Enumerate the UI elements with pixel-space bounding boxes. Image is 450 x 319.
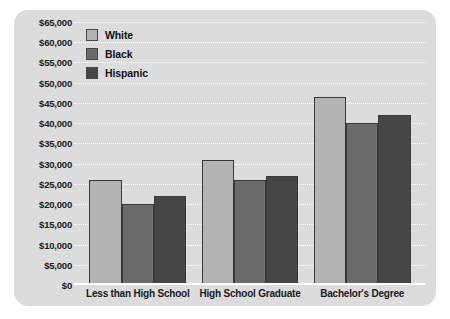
y-axis-tick-label: $15,000 bbox=[14, 219, 72, 230]
bar-group bbox=[314, 22, 411, 285]
bar-black bbox=[234, 180, 266, 285]
legend-swatch-icon bbox=[86, 29, 98, 41]
x-axis-label: High School Graduate bbox=[199, 288, 300, 299]
bar-hispanic bbox=[378, 115, 410, 285]
y-axis-tick-label: $50,000 bbox=[14, 77, 72, 88]
legend-label: Hispanic bbox=[105, 67, 148, 79]
bar-white bbox=[89, 180, 121, 285]
y-axis-tick-label: $20,000 bbox=[14, 199, 72, 210]
y-axis-tick-label: $60,000 bbox=[14, 37, 72, 48]
bar-hispanic bbox=[266, 176, 298, 285]
bar-hispanic bbox=[154, 196, 186, 285]
chart-card: $65,000$60,000$55,000$50,000$45,000$40,0… bbox=[14, 10, 436, 306]
chart-legend: WhiteBlackHispanic bbox=[86, 26, 148, 83]
legend-item-hispanic: Hispanic bbox=[86, 64, 148, 81]
legend-item-black: Black bbox=[86, 45, 148, 62]
axis-baseline bbox=[74, 283, 426, 285]
legend-swatch-icon bbox=[86, 48, 98, 60]
legend-label: White bbox=[105, 29, 133, 41]
bar-black bbox=[122, 204, 154, 285]
x-axis-category-labels: Less than High SchoolHigh School Graduat… bbox=[74, 288, 426, 304]
bar-group bbox=[202, 22, 299, 285]
x-axis-label: Less than High School bbox=[86, 288, 190, 299]
y-axis-tick-label: $40,000 bbox=[14, 118, 72, 129]
y-axis-tick-label: $55,000 bbox=[14, 57, 72, 68]
y-axis-tick-label: $35,000 bbox=[14, 138, 72, 149]
y-axis-tick-label: $25,000 bbox=[14, 178, 72, 189]
y-axis-tick-label: $5,000 bbox=[14, 259, 72, 270]
legend-item-white: White bbox=[86, 26, 148, 43]
x-axis-label: Bachelor's Degree bbox=[320, 288, 404, 299]
bar-white bbox=[314, 97, 346, 285]
y-axis-tick-label: $10,000 bbox=[14, 239, 72, 250]
legend-swatch-icon bbox=[86, 67, 98, 79]
y-axis: $65,000$60,000$55,000$50,000$45,000$40,0… bbox=[14, 10, 72, 306]
y-axis-tick-label: $30,000 bbox=[14, 158, 72, 169]
y-axis-tick-label: $0 bbox=[14, 280, 72, 291]
y-axis-tick-label: $65,000 bbox=[14, 17, 72, 28]
legend-label: Black bbox=[105, 48, 133, 60]
bar-white bbox=[202, 160, 234, 285]
bar-black bbox=[346, 123, 378, 285]
y-axis-tick-label: $45,000 bbox=[14, 97, 72, 108]
